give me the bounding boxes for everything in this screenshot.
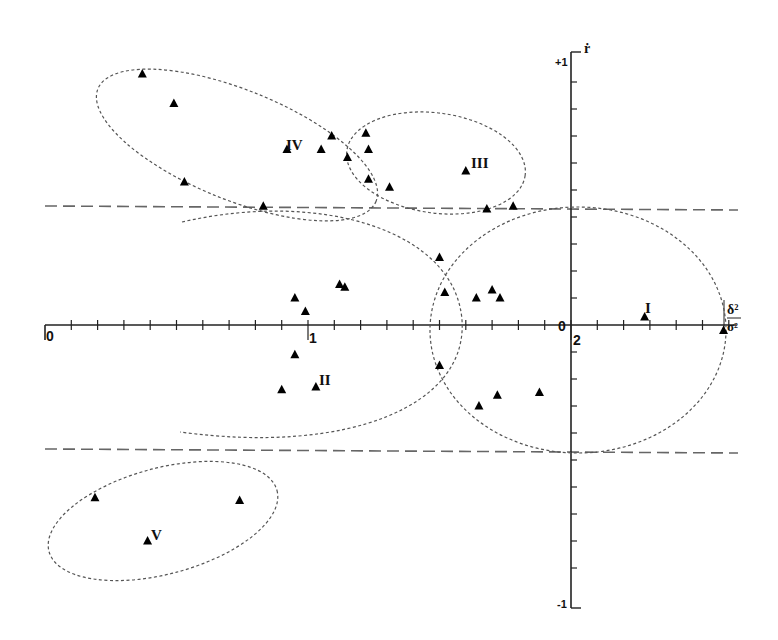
- triangle-marker: [138, 69, 147, 78]
- triangle-marker: [259, 201, 268, 210]
- x-axis: 0 1 2 δ² σ²: [45, 300, 741, 348]
- threshold-lines: [45, 206, 738, 453]
- triangle-marker: [488, 285, 497, 294]
- triangle-marker: [461, 166, 470, 175]
- y-tick-label-plus1: +1: [555, 56, 568, 68]
- cluster-boundaries: [35, 38, 726, 603]
- triangle-marker: [493, 390, 502, 399]
- cluster-IV-boundary: [77, 38, 396, 252]
- triangle-marker: [472, 293, 481, 302]
- triangle-marker: [343, 153, 352, 162]
- triangle-marker: [361, 128, 370, 137]
- triangle-marker: [90, 493, 99, 502]
- triangle-marker: [440, 288, 449, 297]
- y-axis-label: ṙ: [584, 41, 590, 56]
- x-tick-label-0: 0: [46, 328, 54, 344]
- triangle-marker: [474, 401, 483, 410]
- triangle-marker: [277, 385, 286, 394]
- triangle-marker: [535, 388, 544, 397]
- cluster-label-III: III: [471, 155, 489, 171]
- y-tick-label-0: 0: [558, 318, 566, 334]
- cluster-I-boundary: [430, 207, 726, 453]
- cluster-III-boundary: [340, 101, 532, 225]
- y-tick-label-minus1: -1: [557, 598, 567, 610]
- triangle-marker: [290, 350, 299, 359]
- x-axis-label-denominator: σ²: [727, 319, 738, 334]
- upper-threshold-line: [45, 206, 738, 210]
- triangle-marker: [364, 145, 373, 154]
- triangle-marker: [435, 253, 444, 262]
- triangle-marker: [290, 293, 299, 302]
- triangle-marker: [385, 182, 394, 191]
- cluster-label-IV: IV: [286, 137, 303, 153]
- cluster-V-boundary: [35, 439, 290, 602]
- triangle-marker: [301, 307, 310, 316]
- x-axis-label-numerator: δ²: [727, 302, 738, 317]
- lower-threshold-line: [45, 449, 738, 453]
- triangle-marker: [509, 201, 518, 210]
- x-tick-label-2: 2: [573, 332, 581, 348]
- cluster-label-V: V: [151, 527, 162, 543]
- x-tick-label-1: 1: [309, 330, 317, 346]
- data-points: [90, 69, 728, 545]
- triangle-marker: [180, 177, 189, 186]
- triangle-marker: [235, 496, 244, 505]
- triangle-marker: [495, 293, 504, 302]
- scatter-cluster-diagram: 0 1 2 δ² σ² +1 0 -1 ṙ I II III IV V: [0, 0, 778, 640]
- cluster-label-I: I: [645, 300, 651, 316]
- triangle-marker: [317, 145, 326, 154]
- triangle-marker: [169, 99, 178, 108]
- cluster-label-II: II: [319, 372, 331, 388]
- triangle-marker: [364, 174, 373, 183]
